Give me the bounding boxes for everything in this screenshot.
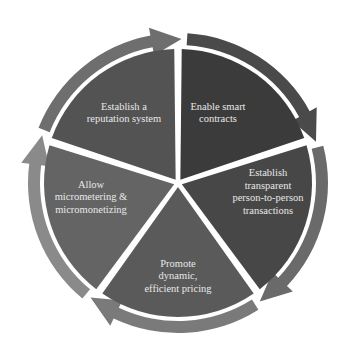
cycle-diagram: Enable smartcontractsEstablishtransparen…	[0, 0, 346, 356]
